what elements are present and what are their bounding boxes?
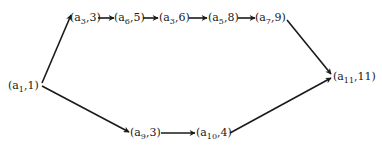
edges xyxy=(42,15,331,133)
node-a10-4: (a10,4) xyxy=(196,126,232,141)
node-a11-11: (a11,11) xyxy=(333,70,376,85)
node-a9-3: (a9,3) xyxy=(130,126,161,141)
node-a7-9: (a7,9) xyxy=(255,11,286,26)
node-a1-1: (a1,1) xyxy=(8,79,39,94)
node-a5-8: (a5,8) xyxy=(208,11,239,26)
node-a6-5: (a6,5) xyxy=(114,11,145,26)
edge-a10-to-a11 xyxy=(230,78,331,133)
node-a3-6: (a3,6) xyxy=(159,11,190,26)
edge-a7-to-a11 xyxy=(287,20,331,74)
node-a3-3: (a3,3) xyxy=(70,11,101,26)
directed-graph: (a1,1) (a3,3) (a6,5) (a3,6) (a5,8) (a7,9… xyxy=(0,0,382,154)
edge-a1-to-a3 xyxy=(42,15,71,83)
edge-a1-to-a9 xyxy=(42,86,129,132)
nodes: (a1,1) (a3,3) (a6,5) (a3,6) (a5,8) (a7,9… xyxy=(8,11,376,141)
